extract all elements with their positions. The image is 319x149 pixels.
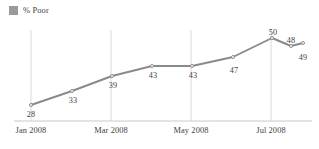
data-point-label: 50 [269, 28, 277, 37]
data-point-label: 28 [27, 110, 35, 119]
x-axis-tick-label: Mar 2008 [94, 126, 128, 135]
data-point-label: 43 [149, 71, 157, 80]
data-series-line [31, 38, 303, 105]
data-point-label: 49 [299, 53, 307, 62]
x-axis-tick-label: May 2008 [174, 126, 209, 135]
data-point-label: 43 [189, 71, 197, 80]
data-point-label: 39 [109, 81, 117, 90]
x-axis-tick-label: Jul 2008 [256, 126, 285, 135]
x-axis-tick-label: Jan 2008 [16, 126, 47, 135]
data-point-label: 33 [69, 96, 77, 105]
chart-container: % Poor [0, 0, 319, 149]
data-point-label: 47 [230, 66, 238, 75]
data-point-label: 48 [287, 36, 295, 45]
